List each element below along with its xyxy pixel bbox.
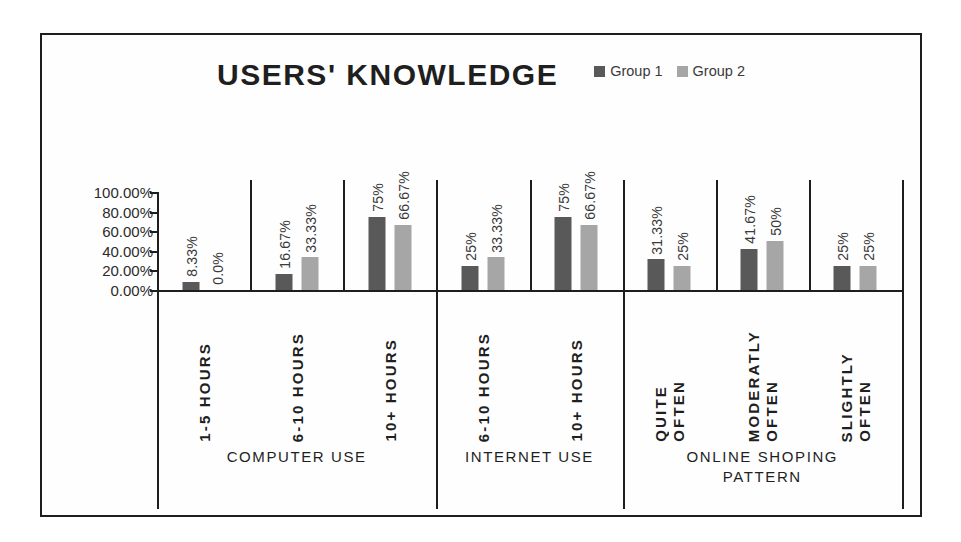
bar-value-label: 66.67% xyxy=(582,171,598,220)
category-axis-label: QUITEOFTEN xyxy=(652,380,687,442)
chart-frame: USERS' KNOWLEDGE Group 1Group 2 0.00%20.… xyxy=(40,33,922,517)
y-axis-tick-label: 40.00% xyxy=(102,244,153,259)
y-axis-tick-label: 80.00% xyxy=(102,205,153,220)
category-axis-label: 6-10 HOURS xyxy=(288,332,305,442)
bar[interactable] xyxy=(555,217,572,291)
bar-column[interactable]: 33.33% xyxy=(301,192,318,290)
bar-value-label: 50% xyxy=(768,207,784,236)
bar-column[interactable]: 66.67% xyxy=(394,192,411,290)
page-title: USERS' KNOWLEDGE xyxy=(217,58,558,92)
bar[interactable] xyxy=(394,225,411,290)
group-label-band: COMPUTER USEINTERNET USEONLINE SHOPING P… xyxy=(157,447,902,509)
bar-value-label: 25% xyxy=(861,232,877,261)
bar-value-label: 16.67% xyxy=(276,220,292,269)
plot-area: 0.00%20.00%40.00%60.00%80.00%100.00% 8.3… xyxy=(157,192,902,290)
bar-value-label: 8.33% xyxy=(183,236,199,277)
bar[interactable] xyxy=(461,266,478,291)
bar[interactable] xyxy=(674,266,691,291)
bar[interactable] xyxy=(301,257,318,290)
category-axis-label: 1-5 HOURS xyxy=(195,342,212,442)
bar-value-label: 25% xyxy=(462,232,478,261)
group-divider xyxy=(902,290,904,509)
bar[interactable] xyxy=(182,282,199,290)
bar[interactable] xyxy=(487,257,504,290)
bar-group: 16.67%33.33% xyxy=(250,192,343,290)
category-divider xyxy=(436,180,438,290)
category-axis-label: SLIGHTLYOFTEN xyxy=(838,352,873,442)
bar-column[interactable]: 66.67% xyxy=(581,192,598,290)
category-axis-label-line: 10+ HOURS xyxy=(381,338,398,442)
category-divider xyxy=(530,180,532,290)
bar[interactable] xyxy=(834,266,851,291)
category-divider xyxy=(623,180,625,290)
bar-column[interactable]: 8.33% xyxy=(182,192,199,290)
y-axis-labels: 0.00%20.00%40.00%60.00%80.00%100.00% xyxy=(55,181,153,301)
y-axis-tick-label: 60.00% xyxy=(102,224,153,239)
bar-value-label: 33.33% xyxy=(488,204,504,253)
bar-column[interactable]: 25% xyxy=(834,192,851,290)
group-axis-label: INTERNET USE xyxy=(444,447,614,467)
y-axis-tick-label: 100.00% xyxy=(94,185,153,200)
category-axis-label-line: 6-10 HOURS xyxy=(474,332,491,442)
category-divider xyxy=(343,180,345,290)
category-axis-label-line: 1-5 HOURS xyxy=(195,342,212,442)
bar[interactable] xyxy=(767,241,784,290)
bar[interactable] xyxy=(860,266,877,291)
bar[interactable] xyxy=(648,259,665,290)
legend-item-label: Group 1 xyxy=(610,63,662,79)
bar[interactable] xyxy=(275,274,292,290)
bar-column[interactable]: 50% xyxy=(767,192,784,290)
category-divider xyxy=(716,180,718,290)
category-label-band: 1-5 HOURS6-10 HOURS10+ HOURS6-10 HOURS10… xyxy=(157,294,902,442)
group-divider xyxy=(436,290,438,509)
group-axis-label: COMPUTER USE xyxy=(165,447,428,467)
bar-group: 41.67%50% xyxy=(716,192,809,290)
chart-legend: Group 1Group 2 xyxy=(594,63,745,79)
bar-value-label: 41.67% xyxy=(742,195,758,244)
bar-column[interactable]: 31.33% xyxy=(648,192,665,290)
category-divider xyxy=(809,180,811,290)
category-axis-label: 10+ HOURS xyxy=(381,338,398,442)
bar-column[interactable]: 75% xyxy=(368,192,385,290)
y-axis-tick-label: 0.00% xyxy=(110,283,153,298)
bar-column[interactable]: 75% xyxy=(555,192,572,290)
legend-swatch-icon xyxy=(594,66,605,77)
legend-swatch-icon xyxy=(677,66,688,77)
bar-column[interactable]: 0.0% xyxy=(208,192,225,290)
category-axis-label-line: 6-10 HOURS xyxy=(288,332,305,442)
category-axis-label-line: QUITE xyxy=(652,385,669,442)
bar-value-label: 25% xyxy=(835,232,851,261)
bar-value-label: 31.33% xyxy=(649,206,665,255)
bar-group: 25%25% xyxy=(809,192,902,290)
category-divider xyxy=(250,180,252,290)
bar-column[interactable]: 41.67% xyxy=(741,192,758,290)
bar-group: 31.33%25% xyxy=(623,192,716,290)
category-axis-label: 10+ HOURS xyxy=(568,338,585,442)
category-axis-label-line: OFTEN xyxy=(670,380,687,442)
group-divider xyxy=(623,290,625,509)
legend-item-label: Group 2 xyxy=(693,63,745,79)
bar-group: 75%66.67% xyxy=(530,192,623,290)
group-divider xyxy=(157,290,159,509)
category-axis-label-line: OFTEN xyxy=(856,380,873,442)
bar-value-label: 0.0% xyxy=(209,252,225,285)
legend-item[interactable]: Group 1 xyxy=(594,63,662,79)
bar[interactable] xyxy=(741,249,758,290)
bar-value-label: 33.33% xyxy=(302,204,318,253)
bar-column[interactable]: 25% xyxy=(461,192,478,290)
legend-item[interactable]: Group 2 xyxy=(677,63,745,79)
category-axis-label-line: MODERATLY xyxy=(745,330,762,442)
bar-column[interactable]: 25% xyxy=(674,192,691,290)
bar-group: 75%66.67% xyxy=(343,192,436,290)
bar-group: 8.33%0.0% xyxy=(157,192,250,290)
bar-column[interactable]: 33.33% xyxy=(487,192,504,290)
bar-value-label: 75% xyxy=(369,183,385,212)
bar-column[interactable]: 25% xyxy=(860,192,877,290)
bar-column[interactable]: 16.67% xyxy=(275,192,292,290)
category-divider xyxy=(902,180,904,290)
category-axis-label-line: SLIGHTLY xyxy=(838,352,855,442)
bar[interactable] xyxy=(581,225,598,290)
bar[interactable] xyxy=(368,217,385,291)
bar-value-label: 66.67% xyxy=(395,171,411,220)
category-axis-label: 6-10 HOURS xyxy=(474,332,491,442)
